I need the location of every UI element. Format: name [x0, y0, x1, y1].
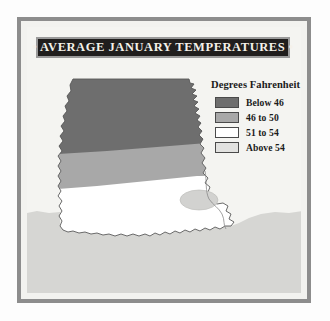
title-plate: • AVERAGE JANUARY TEMPERATURES • [38, 39, 288, 56]
legend-item-46-to-50: 46 to 50 [211, 110, 301, 125]
lake-pontchartrain [180, 190, 218, 210]
legend-label-below-46: Below 46 [246, 97, 284, 108]
lake-layer [180, 190, 218, 210]
decorative-frame-inner: • AVERAGE JANUARY TEMPERATURES • Degrees… [21, 21, 307, 299]
title-banner: • AVERAGE JANUARY TEMPERATURES • [36, 37, 290, 58]
legend-swatch-51-to-54 [215, 127, 239, 138]
legend-label-51-to-54: 51 to 54 [246, 127, 279, 138]
legend-swatch-above-54 [215, 142, 239, 153]
decorative-frame-outer: • AVERAGE JANUARY TEMPERATURES • Degrees… [17, 17, 311, 303]
legend-item-below-46: Below 46 [211, 95, 301, 110]
legend-title: Degrees Fahrenheit [211, 79, 301, 90]
page-title: • AVERAGE JANUARY TEMPERATURES • [32, 41, 294, 54]
legend-swatch-46-to-50 [215, 112, 239, 123]
map-plate: • AVERAGE JANUARY TEMPERATURES • Degrees… [27, 27, 301, 293]
legend-swatch-below-46 [215, 97, 239, 108]
legend-item-above-54: Above 54 [211, 140, 301, 155]
legend-label-46-to-50: 46 to 50 [246, 112, 279, 123]
average-january-temperatures-map-figure: • AVERAGE JANUARY TEMPERATURES • Degrees… [0, 0, 330, 321]
map-legend: Degrees Fahrenheit Below 46 46 to 50 51 … [211, 79, 301, 155]
legend-item-51-to-54: 51 to 54 [211, 125, 301, 140]
legend-label-above-54: Above 54 [246, 142, 285, 153]
